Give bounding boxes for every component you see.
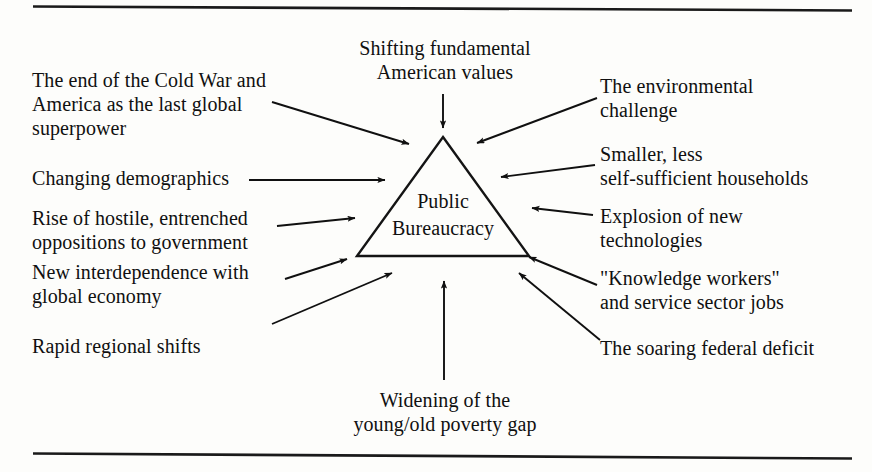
arrow-environment xyxy=(477,98,597,143)
arrow-households xyxy=(501,165,595,177)
label-hostile-oppositions: Rise of hostile, entrenched oppositions … xyxy=(32,206,308,254)
label-federal-deficit: The soaring federal deficit xyxy=(600,336,868,360)
arrow-deficit xyxy=(519,273,600,340)
label-rapid-regional-shifts: Rapid regional shifts xyxy=(32,334,308,358)
label-cold-war: The end of the Cold War and America as t… xyxy=(32,68,308,140)
label-smaller-households: Smaller, less self-sufficient households xyxy=(600,142,868,190)
label-shifting-values: Shifting fundamental American values xyxy=(330,36,560,84)
bottom-rule xyxy=(33,454,852,459)
label-poverty-gap: Widening of the young/old poverty gap xyxy=(320,388,570,436)
arrow-technologies xyxy=(532,208,593,215)
label-environmental-challenge: The environmental challenge xyxy=(600,74,862,122)
arrow-knowledge xyxy=(529,257,597,285)
label-knowledge-workers: "Knowledge workers" and service sector j… xyxy=(600,266,868,314)
label-changing-demographics: Changing demographics xyxy=(32,166,308,190)
label-public-bureaucracy: Public Bureaucracy xyxy=(378,188,508,242)
figure-page: Shifting fundamental American values The… xyxy=(0,0,872,472)
label-new-interdependence: New interdependence with global economy xyxy=(32,260,308,308)
top-rule xyxy=(33,7,852,11)
label-explosion-technologies: Explosion of new technologies xyxy=(600,204,862,252)
